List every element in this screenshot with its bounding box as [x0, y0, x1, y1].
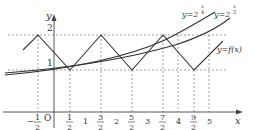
x-tick-5half-num: 5 — [129, 113, 134, 122]
x-tick-1: 1 — [83, 117, 88, 126]
x-tick-3half-num: 3 — [98, 113, 103, 122]
label-2-pow-x-over-5-exp-den: 5 — [233, 9, 236, 15]
x-tick-7half-num: 7 — [160, 113, 165, 122]
y-axis-arrow-icon — [52, 14, 57, 21]
y-axis-label: y — [45, 10, 52, 21]
x-tick-4: 4 — [176, 117, 181, 126]
function-graph: y 2 1 O x − 1 2 1 2 1 3 2 2 5 2 3 7 2 4 … — [0, 0, 255, 130]
label-f-of-x: y=f(x) — [216, 45, 242, 54]
y-tick-1: 1 — [47, 58, 53, 68]
curve-f-zigzag — [23, 35, 223, 70]
x-tick-3: 3 — [145, 117, 150, 126]
x-tick-9half-num: 9 — [191, 113, 196, 122]
x-tick-labels: − 1 2 1 2 1 3 2 2 5 2 3 7 2 4 9 2 5 — [27, 113, 212, 130]
label-2-pow-x-over-5-base: y=2 — [213, 10, 230, 19]
x-tick-neg-half-sign: − — [27, 117, 34, 126]
curve-2-pow-x-over-4 — [5, 12, 215, 75]
x-tick-7half-den: 2 — [160, 123, 165, 130]
x-axis-arrow-icon — [236, 110, 243, 115]
curve-labels: y=2 x 4 y=2 x 5 y=f(x) — [181, 3, 242, 54]
label-2-pow-x-over-4-base: y=2 — [181, 10, 198, 19]
x-tick-3half-den: 2 — [98, 123, 103, 130]
x-tick-2: 2 — [114, 117, 119, 126]
x-tick-neg-half-den: 2 — [35, 123, 40, 130]
curve-2-pow-x-over-5 — [5, 18, 230, 73]
x-tick-neg-half-num: 1 — [35, 113, 40, 122]
x-tick-half-den: 2 — [67, 123, 72, 130]
label-2-pow-x-over-4-exp-den: 4 — [200, 9, 204, 15]
x-tick-5: 5 — [207, 117, 212, 126]
origin-label: O — [44, 113, 51, 123]
x-tick-9half-den: 2 — [191, 123, 196, 130]
guide-lines — [8, 35, 228, 112]
x-tick-half-num: 1 — [67, 113, 72, 122]
y-tick-2: 2 — [47, 23, 53, 33]
x-tick-5half-den: 2 — [129, 123, 134, 130]
x-axis-label: x — [235, 115, 241, 126]
